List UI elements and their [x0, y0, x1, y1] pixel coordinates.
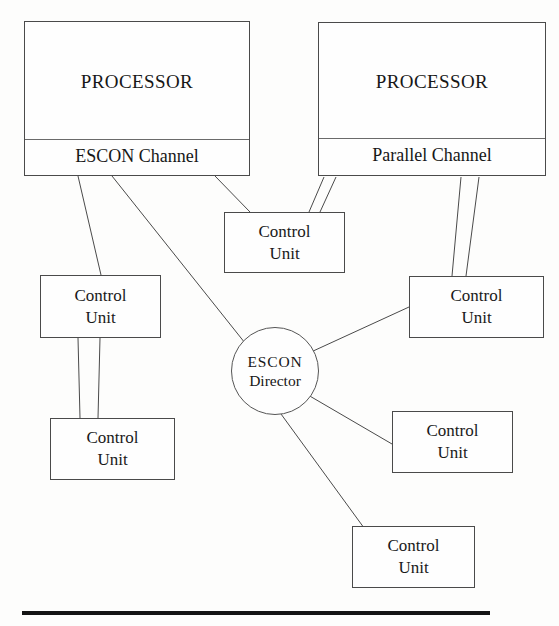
control-unit-label-line1: Control: [451, 285, 503, 307]
diagram-page: PROCESSOR ESCON Channel PROCESSOR Parall…: [0, 0, 559, 626]
escon-director-label-line1: ESCON: [248, 352, 303, 371]
control-unit-label-line2: Unit: [398, 557, 428, 579]
control-unit-label-line2: Unit: [437, 442, 467, 464]
footer-rule: [22, 611, 490, 615]
processor-left-box[interactable]: PROCESSOR ESCON Channel: [24, 21, 250, 176]
link-cu-left-upper-to-cu-left-lower-b: [98, 338, 100, 418]
escon-director-node[interactable]: ESCON Director: [231, 327, 319, 415]
control-unit-label-line1: Control: [259, 221, 311, 243]
control-unit-label-line1: Control: [87, 427, 139, 449]
link-director-to-cu-right-upper: [311, 307, 409, 352]
link-director-to-cu-right-middle: [308, 395, 392, 444]
processor-left-title: PROCESSOR: [25, 71, 249, 93]
processor-right-channel-label: Parallel Channel: [319, 138, 545, 175]
control-unit-right-upper[interactable]: Control Unit: [409, 276, 544, 338]
control-unit-top-middle[interactable]: Control Unit: [224, 212, 345, 273]
link-parallel-channel-to-cu-top-middle-a: [309, 177, 324, 212]
control-unit-label-line2: Unit: [461, 307, 491, 329]
link-parallel-channel-to-cu-right-upper-a: [452, 177, 461, 276]
control-unit-bottom[interactable]: Control Unit: [352, 526, 475, 588]
control-unit-label-line2: Unit: [97, 449, 127, 471]
link-parallel-channel-to-cu-right-upper-b: [466, 177, 479, 276]
processor-right-title: PROCESSOR: [319, 71, 545, 93]
link-escon-channel-to-cu-top-middle: [215, 176, 250, 212]
control-unit-right-middle[interactable]: Control Unit: [392, 411, 513, 473]
control-unit-label-line2: Unit: [85, 307, 115, 329]
link-parallel-channel-to-cu-top-middle-b: [320, 177, 336, 212]
link-escon-channel-to-cu-left-upper: [78, 176, 101, 275]
control-unit-label-line1: Control: [388, 535, 440, 557]
control-unit-left-lower[interactable]: Control Unit: [50, 418, 175, 480]
escon-director-label-line2: Director: [249, 371, 301, 390]
control-unit-label-line1: Control: [75, 285, 127, 307]
processor-right-box[interactable]: PROCESSOR Parallel Channel: [318, 22, 546, 176]
link-cu-left-upper-to-cu-left-lower-a: [78, 338, 80, 418]
processor-left-channel-label: ESCON Channel: [25, 139, 249, 175]
control-unit-label-line1: Control: [427, 420, 479, 442]
control-unit-label-line2: Unit: [269, 243, 299, 265]
control-unit-left-upper[interactable]: Control Unit: [40, 275, 161, 338]
link-director-to-cu-bottom: [281, 414, 367, 532]
